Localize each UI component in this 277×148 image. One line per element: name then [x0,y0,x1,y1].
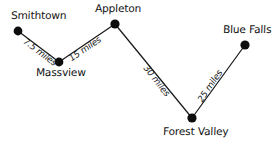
city-label-forest-valley: Forest Valley [163,126,229,137]
node-dot-forest-valley [187,113,196,122]
city-label-smithtown: Smithtown [11,10,67,21]
city-label-appleton: Appleton [95,3,142,14]
city-label-blue-falls: Blue Falls [223,24,272,35]
node-dot-appleton [110,19,119,28]
node-dot-smithtown [14,27,23,36]
distance-map-diagram: Smithtown Massview Appleton Forest Valle… [0,0,277,148]
city-label-massview: Massview [36,67,86,78]
node-dot-blue-falls [240,40,249,49]
